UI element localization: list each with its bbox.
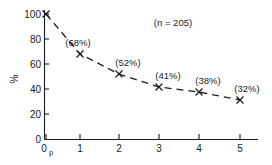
x-tick-label-3: 3 <box>156 143 162 154</box>
point-label-4: (38%) <box>195 75 220 86</box>
y-tick-label-20: 20 <box>30 109 42 120</box>
survival-decline-line-chart: 100 80 60 40 20 0 % 0 p 1 2 3 4 5 <box>0 0 272 165</box>
y-tick-label-80: 80 <box>30 34 42 45</box>
point-label-3: (41%) <box>155 70 180 81</box>
x-tick-label-0: 0 <box>41 143 47 154</box>
point-label-2: (52%) <box>115 57 140 68</box>
y-axis: 100 80 60 40 20 0 % <box>9 9 49 145</box>
chart-container: 100 80 60 40 20 0 % 0 p 1 2 3 4 5 <box>0 0 272 165</box>
x-axis: 0 p 1 2 3 4 5 <box>41 134 258 157</box>
data-point-2 <box>116 71 123 78</box>
series-line <box>46 14 240 100</box>
point-labels: (68%) (52%) (41%) (38%) (32%) <box>65 37 259 94</box>
y-tick-label-60: 60 <box>30 59 42 70</box>
x-tick-label-5: 5 <box>237 143 243 154</box>
y-tick-label-40: 40 <box>30 84 42 95</box>
x-tick-sublabel-p: p <box>49 148 53 157</box>
x-tick-label-2: 2 <box>116 143 122 154</box>
x-tick-label-1: 1 <box>77 143 83 154</box>
x-tick-label-4: 4 <box>196 143 202 154</box>
point-label-1: (68%) <box>65 37 90 48</box>
data-series <box>43 11 244 104</box>
data-point-1 <box>77 51 84 58</box>
y-axis-title: % <box>9 74 20 83</box>
data-point-3 <box>156 84 163 91</box>
y-tick-label-100: 100 <box>24 9 41 20</box>
sample-size-annotation: (n = 205) <box>154 17 192 28</box>
point-label-5: (32%) <box>234 83 259 94</box>
